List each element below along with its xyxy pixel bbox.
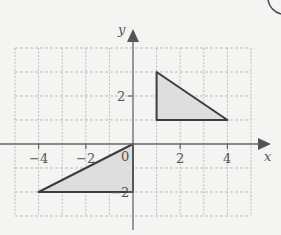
y-tick-label: −2 (110, 185, 129, 200)
x-tick-label: −2 (76, 151, 95, 166)
x-tick-label: 4 (223, 151, 231, 166)
circle-fragment (268, 0, 281, 14)
x-tick-label: −4 (29, 151, 48, 166)
origin-label: 0 (121, 149, 129, 164)
x-tick-label: 2 (176, 151, 184, 166)
y-axis-arrow-icon (127, 29, 139, 42)
y-tick-label: 2 (117, 89, 125, 104)
coordinate-grid-diagram: y x −4 −2 0 2 4 2 −2 (0, 0, 281, 235)
y-axis-label: y (117, 22, 126, 37)
axes (0, 40, 260, 230)
x-axis-label: x (264, 149, 272, 164)
